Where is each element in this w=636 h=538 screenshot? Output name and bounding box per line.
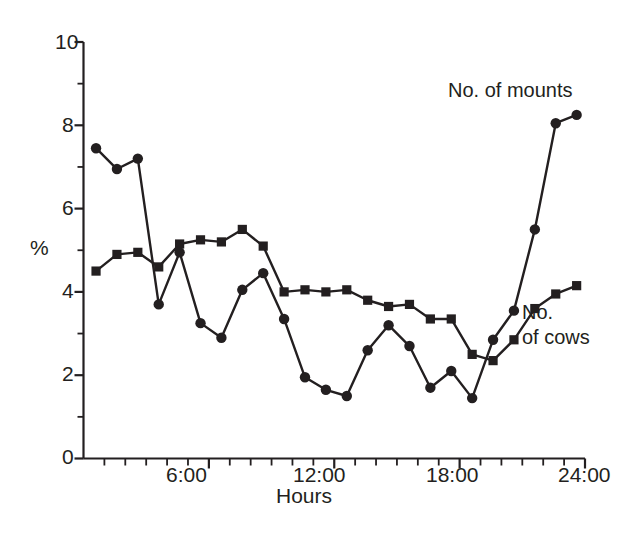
x-tick-label-12: 12:00 [293, 463, 346, 487]
chart-figure: % Hours 10 8 6 4 2 0 6:00 12:00 18:00 24… [0, 0, 636, 538]
y-tick-label-0: 0 [62, 445, 74, 469]
y-tick-label-10: 10 [55, 30, 78, 54]
series-annotation-cows: No. of cows [522, 300, 590, 350]
y-axis-label: % [30, 236, 49, 260]
axis-lines [84, 42, 586, 459]
series-annotation-cows-line2: of cows [522, 325, 590, 350]
x-tick-label-18: 18:00 [426, 463, 479, 487]
series-markers-cows [91, 225, 581, 365]
x-axis-label: Hours [276, 484, 332, 508]
y-tick-label-6: 6 [62, 196, 74, 220]
series-annotation-cows-line1: No. [522, 300, 590, 325]
series-markers-mounts [91, 110, 582, 404]
y-axis-ticks [75, 42, 84, 459]
series-annotation-mounts: No. of mounts [448, 78, 573, 103]
x-tick-label-6: 6:00 [166, 463, 207, 487]
y-tick-label-2: 2 [62, 362, 74, 386]
series-line-cows [96, 229, 577, 360]
x-tick-label-24: 24:00 [558, 463, 611, 487]
y-tick-label-8: 8 [62, 113, 74, 137]
y-tick-label-4: 4 [62, 279, 74, 303]
